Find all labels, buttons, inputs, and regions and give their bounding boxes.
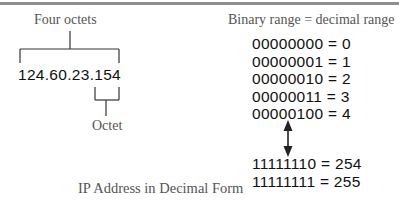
binary-row: 11111111 = 255 [252,173,362,191]
double-arrow-icon [284,120,293,157]
caption: IP Address in Decimal Form [78,180,243,197]
binary-row: 00000011 = 3 [252,88,351,106]
binary-range-header: Binary range = decimal range [228,12,395,28]
binary-row: 00000001 = 1 [252,53,351,71]
binary-row: 00000100 = 4 [252,105,351,123]
binary-row: 00000010 = 2 [252,70,351,88]
ip-address: 124.60.23.154 [18,66,121,84]
binary-rows-top: 00000000 = 0 00000001 = 1 00000010 = 2 0… [252,35,351,123]
octet-label: Octet [92,118,122,134]
binary-row: 11111110 = 254 [252,155,362,173]
binary-rows-bottom: 11111110 = 254 11111111 = 255 [252,155,362,190]
binary-row: 00000000 = 0 [252,35,351,53]
